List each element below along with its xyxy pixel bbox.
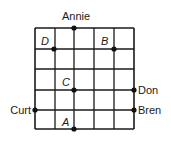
person-label-bren: Bren (138, 104, 161, 116)
point-label-a: A (61, 116, 69, 128)
point-label-b: B (101, 35, 108, 47)
point-label-c: C (62, 76, 70, 88)
point-label-d: D (41, 35, 49, 47)
point-dot-d (51, 46, 56, 51)
point-dot-c (71, 87, 76, 92)
person-label-annie: Annie (62, 10, 90, 22)
point-dot-b (111, 46, 116, 51)
person-label-curt: Curt (10, 104, 31, 116)
person-dot-annie (71, 25, 76, 30)
person-dot-don (131, 87, 136, 92)
person-dot-bren (131, 107, 136, 112)
grid-diagram: AnnieCurtDonBrenABCD (0, 0, 171, 142)
person-label-don: Don (138, 84, 158, 96)
person-dot-curt (32, 107, 37, 112)
grid-lines (35, 28, 134, 129)
point-dot-a (71, 126, 76, 131)
grid-map-canvas: AnnieCurtDonBrenABCD (0, 0, 171, 142)
